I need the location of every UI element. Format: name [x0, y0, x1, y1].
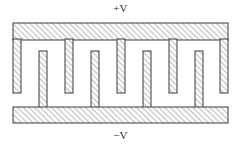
top-finger-1 [13, 39, 21, 93]
top-electrode-bar [13, 23, 228, 40]
electrode-drawing [0, 0, 241, 148]
top-finger-2 [65, 39, 73, 93]
interdigitated-electrode-figure: +V −V [0, 0, 241, 148]
bottom-finger-2 [91, 51, 99, 108]
bottom-electrode-bar [13, 107, 228, 123]
negative-voltage-label: −V [0, 129, 241, 141]
bottom-finger-3 [143, 51, 151, 108]
bottom-finger-4 [195, 51, 203, 108]
bottom-finger-1 [39, 51, 47, 108]
top-finger-4 [169, 39, 177, 93]
top-finger-3 [117, 39, 125, 93]
top-finger-5 [220, 39, 228, 93]
